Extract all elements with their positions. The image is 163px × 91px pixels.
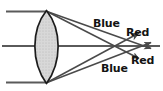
chromatic-aberration-diagram: Blue Red Blue Red [0, 0, 163, 91]
label-red-lower: Red [131, 55, 154, 66]
label-blue-upper: Blue [93, 18, 120, 29]
lens-body [35, 11, 58, 84]
ray-blue-from-bottom [47, 33, 139, 83]
label-blue-lower: Blue [101, 63, 128, 74]
label-red-upper: Red [126, 27, 149, 38]
diagram-canvas [0, 0, 163, 91]
